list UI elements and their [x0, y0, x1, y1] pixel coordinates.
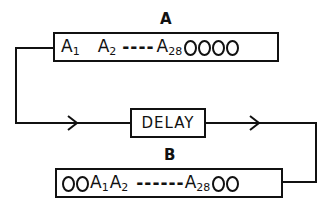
register-b: A1 A2 ------ A28 [55, 168, 283, 198]
cell-a1: A1 [61, 38, 80, 57]
empty-slot-icon [226, 176, 239, 192]
empty-slots [184, 38, 240, 57]
empty-slot-icon [198, 40, 211, 56]
cell-a28: A28 [157, 38, 183, 57]
ellipsis: ------ [136, 175, 184, 192]
register-a: A1 A2 ---- A28 [53, 32, 279, 62]
empty-slot-icon [212, 176, 225, 192]
cell-a2: A2 [98, 38, 117, 57]
empty-slot-icon [76, 176, 89, 192]
empty-slot-icon [226, 40, 239, 56]
cell-a1: A1 [90, 174, 109, 193]
ellipsis: ---- [122, 39, 154, 56]
empty-slot-icon [62, 176, 75, 192]
delay-block: DELAY [130, 108, 206, 138]
trailing-empty-slots [212, 174, 240, 193]
empty-slot-icon [212, 40, 225, 56]
register-b-label: B [164, 146, 175, 164]
cell-a2: A2 [110, 174, 129, 193]
empty-slot-icon [184, 40, 197, 56]
cell-a28: A28 [185, 174, 211, 193]
leading-empty-slots [62, 174, 90, 193]
register-a-label: A [160, 10, 172, 28]
